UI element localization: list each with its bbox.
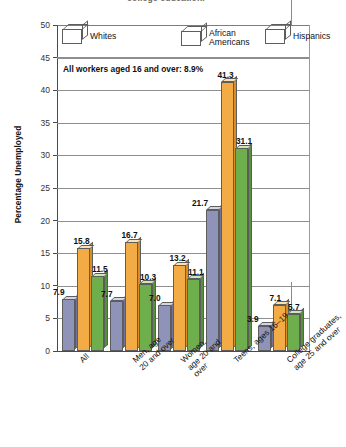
bar-african-americans-group-4 <box>221 82 234 351</box>
y-tick-mark-30 <box>53 155 57 156</box>
bar-african-americans-group-1 <box>77 248 90 351</box>
bar-whites-group-1 <box>62 299 75 351</box>
y-tick-mark-35 <box>53 122 57 123</box>
y-tick-label-0: 0 <box>24 346 50 356</box>
bar-whites-group-4 <box>206 210 219 351</box>
leader-line-artifact <box>291 0 292 26</box>
gridline-20 <box>57 221 310 222</box>
value-label-hispanics-group-4: 31.1 <box>236 136 252 146</box>
x-category-label-2: Men, age20 and over <box>131 358 144 372</box>
y-tick-mark-0 <box>53 351 57 352</box>
value-label-african-americans-group-5: 7.1 <box>270 293 282 303</box>
y-tick-label-45: 45 <box>24 53 50 63</box>
y-tick-mark-20 <box>53 220 57 221</box>
value-label-whites-group-3: 7.0 <box>149 293 161 303</box>
value-label-african-americans-group-2: 16.7 <box>122 230 138 240</box>
y-tick-mark-15 <box>53 253 57 254</box>
value-label-whites-group-1: 7.9 <box>53 287 65 297</box>
y-tick-mark-10 <box>53 285 57 286</box>
chart-legend: WhitesAfricanAmericansHispanics <box>57 25 309 58</box>
y-tick-label-30: 30 <box>24 150 50 160</box>
gridline-25 <box>57 188 310 189</box>
value-label-african-americans-group-3: 13.2 <box>170 253 186 263</box>
legend-swatch-whites <box>62 29 82 44</box>
value-label-whites-group-4: 21.7 <box>192 198 208 208</box>
chart-title: college education. <box>0 0 332 3</box>
value-label-whites-group-5: 3.9 <box>247 314 259 324</box>
gridline-40 <box>57 90 310 91</box>
legend-label-african-americans: AfricanAmericans <box>209 29 250 48</box>
y-tick-label-10: 10 <box>24 281 50 291</box>
value-label-hispanics-group-3: 11.1 <box>188 267 204 277</box>
y-tick-mark-5 <box>53 318 57 319</box>
bar-hispanics-group-1 <box>91 276 104 351</box>
y-tick-label-50: 50 <box>24 20 50 30</box>
x-category-label-3: Women,age 20 andover <box>179 358 198 379</box>
legend-swatch-hispanics <box>265 29 285 44</box>
value-label-african-americans-group-1: 15.8 <box>74 236 90 246</box>
value-label-hispanics-group-5: 5.7 <box>288 302 300 312</box>
legend-item-hispanics: Hispanics <box>265 29 330 44</box>
legend-label-whites: Whites <box>90 32 116 41</box>
y-axis-title: Percentage Unemployed <box>14 110 23 240</box>
legend-swatch-african-americans <box>181 31 201 46</box>
y-tick-label-40: 40 <box>24 85 50 95</box>
legend-item-whites: Whites <box>62 29 116 44</box>
legend-item-african-americans: AfricanAmericans <box>181 29 250 48</box>
bar-african-americans-group-2 <box>125 242 138 351</box>
y-tick-mark-25 <box>53 188 57 189</box>
gridline-30 <box>57 155 310 156</box>
y-tick-label-5: 5 <box>24 313 50 323</box>
x-category-label-1: All <box>78 358 84 365</box>
bar-whites-group-2 <box>110 301 123 351</box>
y-tick-label-20: 20 <box>24 216 50 226</box>
x-category-label-4: Teens, ages 16–19 <box>232 358 238 365</box>
value-label-whites-group-2: 7.7 <box>101 289 113 299</box>
chart-annotation: All workers aged 16 and over: 8.9% <box>63 64 203 74</box>
legend-label-hispanics: Hispanics <box>293 32 330 41</box>
bar-african-americans-group-3 <box>173 265 186 351</box>
x-category-label-5: College graduates,age 25 and over <box>285 358 298 372</box>
y-tick-label-35: 35 <box>24 118 50 128</box>
value-label-african-americans-group-4: 41.3 <box>218 70 234 80</box>
y-tick-mark-40 <box>53 90 57 91</box>
gridline-35 <box>57 123 310 124</box>
value-label-hispanics-group-2: 10.3 <box>140 272 156 282</box>
y-tick-label-25: 25 <box>24 183 50 193</box>
value-label-hispanics-group-1: 11.5 <box>92 264 108 274</box>
y-tick-label-15: 15 <box>24 248 50 258</box>
